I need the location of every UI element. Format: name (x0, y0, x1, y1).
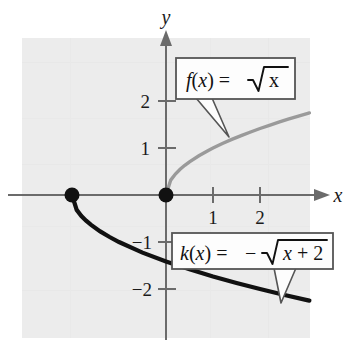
y-tick-label-1: 1 (141, 138, 151, 159)
f-callout-radicand: x (269, 69, 279, 91)
k-callout-equals: = (216, 242, 227, 264)
x-axis-label: x (333, 184, 343, 206)
x-tick-label-1: 1 (208, 207, 218, 228)
k-callout-var: x (195, 242, 205, 264)
x-tick-label-2: 2 (255, 207, 265, 228)
x-axis-arrowhead (314, 189, 330, 201)
f-callout-var: x (197, 69, 207, 91)
y-tick-label-neg2: −2 (132, 279, 152, 300)
k-callout-radicand: x + 2 (282, 242, 323, 264)
function-graph: 1 2 2 1 −1 −2 x y f(x) = x (0, 0, 353, 348)
figure-container: 1 2 2 1 −1 −2 x y f(x) = x (0, 0, 353, 348)
k-endpoint-point (65, 188, 80, 203)
f-callout-equals: = (219, 69, 230, 91)
k-callout-minus: − (245, 242, 256, 264)
k-callout-text: k(x) = (180, 242, 227, 265)
f-callout-text: f(x) = (186, 69, 230, 92)
y-axis-label: y (160, 6, 171, 29)
origin-point (159, 188, 174, 203)
y-tick-label-2: 2 (141, 91, 151, 112)
